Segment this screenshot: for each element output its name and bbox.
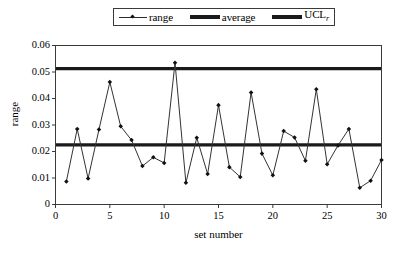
data-point-marker [292, 135, 297, 140]
control-chart-figure: range average UCLr range set number 00.0… [0, 0, 401, 254]
data-point-marker [195, 135, 200, 140]
data-point-marker [64, 179, 69, 184]
data-point-marker [281, 129, 286, 134]
data-point-marker [249, 90, 254, 95]
data-point-marker [205, 172, 210, 177]
data-point-marker [75, 127, 80, 132]
data-point-marker [260, 151, 265, 156]
data-point-marker [216, 103, 221, 108]
data-point-marker [86, 176, 91, 181]
data-point-marker [303, 159, 308, 164]
data-point-marker [325, 162, 330, 167]
range-series-markers [64, 60, 384, 190]
data-point-marker [379, 158, 384, 163]
data-point-marker [97, 127, 102, 132]
x-axis-ticks [56, 205, 382, 209]
data-point-marker [271, 173, 276, 178]
range-series-line [66, 63, 381, 188]
data-point-marker [108, 80, 113, 85]
data-point-marker [184, 181, 189, 186]
data-point-marker [162, 161, 167, 166]
data-point-marker [173, 60, 178, 65]
y-axis-ticks [52, 46, 56, 205]
data-point-marker [314, 87, 319, 92]
plot-area [0, 0, 401, 254]
